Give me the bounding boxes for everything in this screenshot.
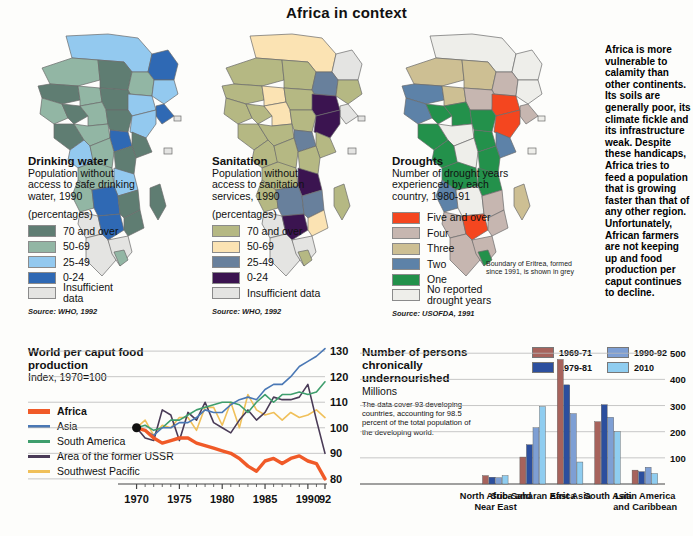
legend-item: Insufficient data (212, 287, 324, 300)
svg-text:100: 100 (330, 422, 348, 434)
panel-units-sanitation: (percentages) (212, 209, 324, 221)
legend-sanitation: Sanitation Population without access to … (212, 155, 324, 316)
legend-label: 70 and over (247, 226, 302, 237)
svg-text:300: 300 (670, 401, 686, 412)
svg-text:1970: 1970 (124, 493, 148, 505)
legend-swatch-icon (28, 287, 56, 299)
legend-item: 25-49 (28, 256, 136, 269)
svg-text:120: 120 (330, 371, 348, 383)
legend-item: 70 and over (212, 225, 324, 238)
legend-swatch-icon (28, 256, 56, 268)
panel-title-droughts: Droughts (392, 155, 516, 168)
legend-item: Insufficient data (28, 287, 136, 300)
legend-swatch-icon (392, 243, 420, 255)
svg-text:130: 130 (330, 345, 348, 357)
legend-swatch-icon (28, 272, 56, 284)
legend-label: Five and over (427, 212, 491, 223)
legend-label: 0-24 (247, 272, 268, 283)
legend-swatch-icon (28, 241, 56, 253)
legend-label: Two (427, 259, 446, 270)
legend-item: 70 and over (28, 225, 136, 238)
legend-label: 25-49 (247, 257, 274, 268)
panel-title-drinking-water: Drinking water (28, 155, 136, 168)
legend-label: 70 and over (63, 226, 118, 237)
svg-text:and Caribbean: and Caribbean (613, 502, 677, 512)
svg-text:200: 200 (670, 427, 686, 438)
svg-text:1975: 1975 (167, 493, 191, 505)
legend-item: 25-49 (212, 256, 324, 269)
legend-droughts: Droughts Number of drought years experie… (392, 155, 516, 318)
legend-label: Four (427, 228, 449, 239)
eritrea-note-text: Boundary of Eritrea, formed since 1991, … (486, 260, 582, 277)
legend-item: Three (392, 242, 516, 255)
legend-list-sanitation: 70 and over 50-69 25-49 0-24 Insufficien… (212, 225, 324, 300)
panel-subtitle-drinking-water: Population without access to safe drinki… (28, 168, 136, 203)
page-title: Africa in context (0, 4, 693, 21)
legend-label: No reported drought years (427, 284, 516, 306)
chart-persons-chronically-undernourished: Number of persons chronically undernouri… (360, 338, 693, 536)
legend-item: 50-69 (28, 240, 136, 253)
legend-swatch-icon (392, 289, 420, 301)
legend-item: 0-24 (212, 271, 324, 284)
legend-swatch-icon (28, 225, 56, 237)
svg-text:1990: 1990 (296, 493, 320, 505)
eritrea-boundary-note: Boundary of Eritrea, formed since 1991, … (486, 260, 582, 277)
legend-label: 50-69 (247, 241, 274, 252)
panel-subtitle-sanitation: Population without access to sanitation … (212, 168, 324, 203)
svg-text:100: 100 (670, 453, 686, 464)
svg-text:500: 500 (670, 348, 686, 359)
legend-label: Insufficient data (247, 288, 320, 299)
legend-list-drinking-water: 70 and over 50-69 25-49 0-24 Insufficien… (28, 225, 136, 300)
legend-item: Four (392, 227, 516, 240)
legend-swatch-icon (212, 256, 240, 268)
legend-swatch-icon (212, 225, 240, 237)
svg-text:110: 110 (330, 396, 348, 408)
source-note-droughts: Source: USOFDA, 1991 (392, 309, 516, 318)
source-note-sanitation: Source: WHO, 1992 (212, 307, 324, 316)
infographic-page: Africa in context (0, 0, 693, 536)
panel-title-sanitation: Sanitation (212, 155, 324, 168)
legend-swatch-icon (212, 241, 240, 253)
linechart-plot: 80901001101201301970197519801985199092 (0, 338, 360, 536)
legend-label: 25-49 (63, 257, 90, 268)
legend-swatch-icon (392, 212, 420, 224)
legend-item: No reported drought years (392, 289, 516, 302)
svg-text:80: 80 (330, 473, 342, 485)
legend-swatch-icon (392, 258, 420, 270)
svg-text:1985: 1985 (253, 493, 277, 505)
legend-item: Five and over (392, 211, 516, 224)
legend-label: 50-69 (63, 241, 90, 252)
legend-swatch-icon (212, 272, 240, 284)
svg-text:400: 400 (670, 374, 686, 385)
chart-world-per-caput-food-production: World per caput food production Index, 1… (0, 338, 360, 536)
svg-text:90: 90 (330, 447, 342, 459)
legend-label: Three (427, 243, 454, 254)
legend-item: 50-69 (212, 240, 324, 253)
legend-swatch-icon (392, 227, 420, 239)
legend-drinking-water: Drinking water Population without access… (28, 155, 136, 316)
panel-units-drinking-water: (percentages) (28, 209, 136, 221)
svg-text:92: 92 (319, 493, 331, 505)
source-note-drinking-water: Source: WHO, 1992 (28, 307, 136, 316)
legend-swatch-icon (212, 287, 240, 299)
svg-text:Near East: Near East (474, 502, 516, 512)
panel-subtitle-droughts: Number of drought years experienced by e… (392, 168, 516, 203)
svg-text:Latin America: Latin America (615, 491, 676, 501)
legend-list-droughts: Five and over Four Three Two One No repo… (392, 211, 516, 302)
legend-label: Insufficient data (63, 282, 136, 304)
svg-text:1980: 1980 (210, 493, 234, 505)
legend-swatch-icon (392, 274, 420, 286)
editorial-paragraph: Africa is more vulnerable to calamity th… (605, 44, 691, 299)
barchart-plot: 100200300400500North Africa andNear East… (360, 338, 693, 536)
